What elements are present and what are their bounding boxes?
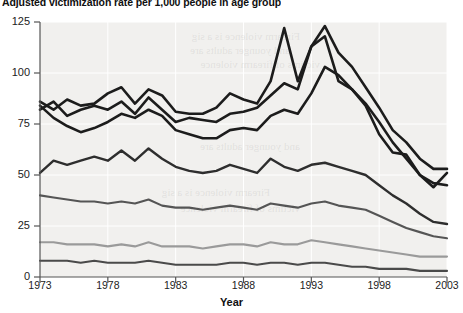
x-axis-title: Year <box>0 296 463 308</box>
x-tick-label: 1993 <box>291 280 331 291</box>
y-tick-label: 50 <box>2 169 30 180</box>
bleed-through-text: and younger adults are <box>200 140 300 152</box>
bleed-through-text: Firearm violence is a sig <box>161 186 270 198</box>
y-tick-label: 125 <box>2 16 30 27</box>
y-tick-label: 25 <box>2 220 30 231</box>
x-tick-label: 2003 <box>427 280 463 291</box>
line-chart-plot: Firearm violence is a sigand younger adu… <box>0 0 463 313</box>
x-tick-label: 1978 <box>88 280 128 291</box>
x-tick-label: 1983 <box>156 280 196 291</box>
y-tick-label: 75 <box>2 118 30 129</box>
x-tick-label: 1998 <box>359 280 399 291</box>
y-tick-label: 100 <box>2 67 30 78</box>
chart-figure: Adjusted victimization rate per 1,000 pe… <box>0 0 463 313</box>
x-tick-label: 1973 <box>20 280 60 291</box>
x-tick-label: 1988 <box>224 280 264 291</box>
bleed-through-text: and younger adults are <box>190 44 290 56</box>
